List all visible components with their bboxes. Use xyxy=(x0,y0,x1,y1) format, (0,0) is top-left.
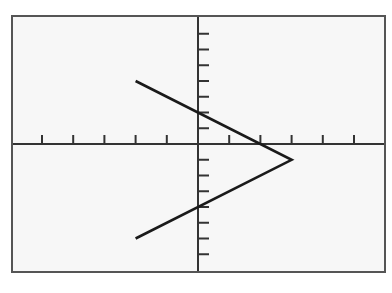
graph xyxy=(0,0,392,293)
